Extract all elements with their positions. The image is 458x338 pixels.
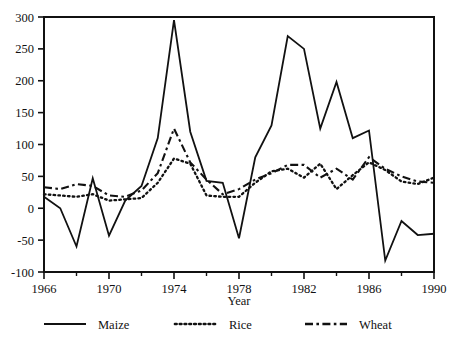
y-tick-label: 200 bbox=[15, 74, 34, 88]
x-tick-label: 1982 bbox=[292, 282, 317, 296]
y-tick-label: 300 bbox=[15, 11, 34, 25]
x-tick-label: 1970 bbox=[97, 282, 122, 296]
legend-label-rice: Rice bbox=[229, 318, 252, 332]
x-tick-label: 1966 bbox=[32, 282, 57, 296]
x-tick-label: 1990 bbox=[422, 282, 447, 296]
y-tick-label: 50 bbox=[22, 170, 35, 184]
y-tick-label: 150 bbox=[15, 106, 34, 120]
y-axis-tick-labels: -100-50050100150200250300 bbox=[11, 11, 34, 280]
legend-label-wheat: Wheat bbox=[359, 318, 392, 332]
y-tick-label: -50 bbox=[17, 234, 34, 248]
y-tick-label: 0 bbox=[28, 202, 34, 216]
y-tick-label: 250 bbox=[15, 42, 34, 56]
x-axis-title: Year bbox=[227, 294, 251, 308]
y-tick-label: -100 bbox=[11, 266, 34, 280]
chart-canvas: -100-50050100150200250300 19661970197419… bbox=[0, 0, 458, 338]
chart-legend: MaizeRiceWheat bbox=[44, 318, 392, 332]
y-tick-label: 100 bbox=[15, 138, 34, 152]
x-tick-label: 1986 bbox=[357, 282, 382, 296]
legend-label-maize: Maize bbox=[98, 318, 130, 332]
x-tick-label: 1974 bbox=[162, 282, 188, 296]
line-chart: -100-50050100150200250300 19661970197419… bbox=[0, 0, 458, 338]
x-axis-ticks bbox=[44, 272, 434, 279]
